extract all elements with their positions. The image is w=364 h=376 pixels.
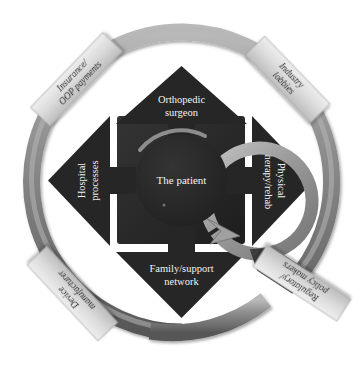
arrow-right-label-line2: therapy/rehab bbox=[263, 152, 274, 210]
arrow-left-label-line1: Hospital bbox=[76, 163, 87, 199]
arrow-top-label-line2: surgeon bbox=[165, 107, 199, 118]
arrow-left-label-line2: processes bbox=[89, 160, 100, 200]
diagram-canvas: Orthopedic surgeon Family/support networ… bbox=[0, 0, 364, 376]
banner-industry-lobbies[interactable]: Industry lobbies bbox=[245, 36, 330, 122]
banner-insurance-oop-payments[interactable]: Insurance/ OOP payments bbox=[31, 33, 123, 127]
banner-device-manufacturer[interactable]: Device manufacturer bbox=[27, 246, 118, 340]
center-patient-label: The patient bbox=[157, 174, 207, 186]
arrow-bottom-label-line1: Family/support bbox=[149, 263, 213, 274]
arrow-right-label-line1: Physical bbox=[276, 163, 287, 199]
stakeholder-cycle-diagram: Orthopedic surgeon Family/support networ… bbox=[0, 0, 364, 376]
outer-ring-tail bbox=[150, 300, 266, 333]
arrow-bottom-label-line2: network bbox=[164, 276, 199, 287]
center-disc-speck bbox=[162, 203, 165, 206]
arrow-top-label-line1: Orthopedic bbox=[158, 94, 206, 105]
